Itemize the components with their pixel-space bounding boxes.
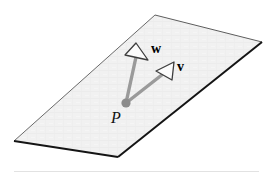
figure-canvas [0,0,274,180]
point-p-dot [121,98,130,107]
vector-plane-figure: w v P [0,0,274,180]
baseline-rule [14,171,259,172]
vector-v-label: v [177,60,184,74]
point-p-label: P [111,110,121,126]
vector-w-label: w [151,42,161,56]
plane-parallelogram [14,15,262,157]
